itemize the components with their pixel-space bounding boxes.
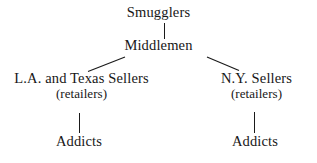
node-ny-sellers-sublabel: (retailers): [196, 87, 317, 101]
node-smugglers-label: Smugglers: [0, 5, 317, 21]
node-addicts-right-label: Addicts: [203, 134, 307, 150]
node-ny-sellers-label: N.Y. Sellers: [196, 71, 317, 87]
node-la-texas-sellers-sublabel: (retailers): [0, 87, 163, 101]
node-la-texas-sellers-label: L.A. and Texas Sellers: [0, 71, 163, 87]
node-smugglers: Smugglers: [0, 5, 317, 21]
node-middlemen: Middlemen: [0, 38, 317, 54]
node-la-texas-sellers: L.A. and Texas Sellers (retailers): [0, 71, 163, 101]
node-addicts-right: Addicts: [203, 134, 307, 150]
node-addicts-left: Addicts: [24, 134, 134, 150]
drug-distribution-hierarchy-diagram: Smugglers Middlemen L.A. and Texas Selle…: [0, 0, 317, 163]
edge-middlemen-to-ny-sellers: [207, 57, 239, 71]
node-ny-sellers: N.Y. Sellers (retailers): [196, 71, 317, 101]
node-middlemen-label: Middlemen: [0, 38, 317, 54]
node-addicts-left-label: Addicts: [24, 134, 134, 150]
